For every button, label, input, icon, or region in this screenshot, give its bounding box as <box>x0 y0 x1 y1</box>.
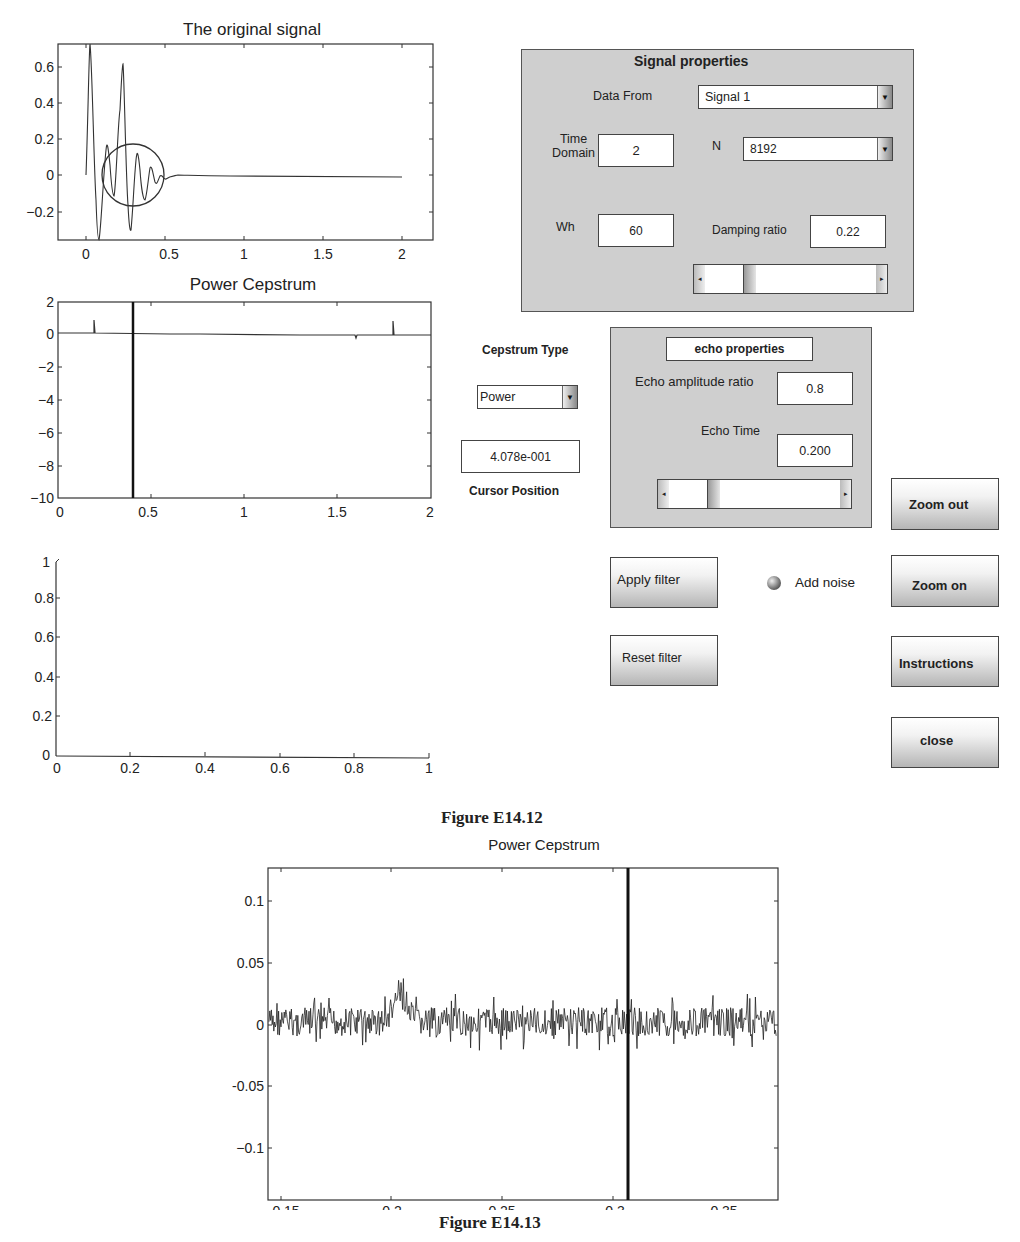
cepstrum-type-value: Power <box>480 390 515 404</box>
plot-title: Power Cepstrum <box>190 275 317 294</box>
cursor-position-field: 4.078e-001 <box>461 440 580 473</box>
svg-text:0.4: 0.4 <box>195 760 215 776</box>
signal-properties-title: Signal properties <box>634 53 748 69</box>
damping-ratio-slider[interactable]: ◂ ▸ <box>693 264 888 294</box>
n-label: N <box>712 139 721 153</box>
svg-text:1: 1 <box>240 246 248 262</box>
svg-text:−2: −2 <box>38 359 54 375</box>
chevron-down-icon[interactable]: ▼ <box>877 138 892 160</box>
echo-properties-panel: echo properties Echo amplitude ratio 0.8… <box>610 327 872 528</box>
svg-text:0.6: 0.6 <box>35 629 55 645</box>
svg-text:0.1: 0.1 <box>245 893 265 909</box>
arrow-left-icon[interactable]: ◂ <box>694 265 705 293</box>
cursor-position-label: Cursor Position <box>469 484 559 498</box>
svg-text:1.5: 1.5 <box>327 504 347 520</box>
arrow-right-icon[interactable]: ▸ <box>876 265 887 293</box>
svg-text:0.25: 0.25 <box>488 1203 515 1210</box>
svg-text:0.4: 0.4 <box>35 669 55 685</box>
plot-title: The original signal <box>183 20 321 39</box>
zoom-on-button[interactable]: Zoom on <box>891 555 999 607</box>
svg-text:2: 2 <box>398 246 406 262</box>
cepstrum-type-select[interactable]: Power ▼ <box>477 385 578 409</box>
svg-text:0.5: 0.5 <box>138 504 158 520</box>
damping-ratio-label: Damping ratio <box>712 223 787 237</box>
radio-button-icon[interactable] <box>767 576 781 590</box>
damping-ratio-input[interactable]: 0.22 <box>810 215 886 248</box>
arrow-right-icon[interactable]: ▸ <box>840 480 851 508</box>
chevron-down-icon[interactable]: ▼ <box>877 86 892 108</box>
svg-text:0: 0 <box>46 167 54 183</box>
svg-text:0.3: 0.3 <box>605 1203 625 1210</box>
svg-text:0.35: 0.35 <box>710 1203 737 1210</box>
wh-label: Wh <box>556 220 575 234</box>
svg-text:0.6: 0.6 <box>35 59 55 75</box>
power-cepstrum-plot[interactable]: Power Cepstrum 2 0 −2 −4 −6 −8 −10 0 0.5… <box>0 265 450 525</box>
svg-text:0.8: 0.8 <box>344 760 364 776</box>
data-from-value: Signal 1 <box>705 90 750 104</box>
svg-text:0.05: 0.05 <box>237 955 264 971</box>
svg-text:0.6: 0.6 <box>270 760 290 776</box>
svg-text:−6: −6 <box>38 425 54 441</box>
n-select[interactable]: 8192 ▼ <box>743 137 893 161</box>
svg-text:0.2: 0.2 <box>382 1203 402 1210</box>
close-button[interactable]: close <box>891 717 999 768</box>
svg-text:−4: −4 <box>38 392 54 408</box>
svg-text:2: 2 <box>426 504 434 520</box>
slider-thumb[interactable] <box>707 480 720 508</box>
time-domain-label: Time Domain <box>552 132 595 160</box>
svg-text:1.5: 1.5 <box>313 246 333 262</box>
svg-text:0: 0 <box>42 747 50 763</box>
svg-text:0: 0 <box>82 246 90 262</box>
svg-text:1: 1 <box>425 760 433 776</box>
svg-text:0: 0 <box>53 760 61 776</box>
svg-text:0.4: 0.4 <box>35 95 55 111</box>
echo-amplitude-input[interactable]: 0.8 <box>777 372 853 405</box>
chevron-down-icon[interactable]: ▼ <box>562 386 577 408</box>
svg-text:−0.2: −0.2 <box>26 204 54 220</box>
svg-text:0: 0 <box>56 504 64 520</box>
reset-filter-button[interactable]: Reset filter <box>610 635 718 686</box>
arrow-left-icon[interactable]: ◂ <box>658 480 669 508</box>
filtered-output-plot: 1 0.8 0.6 0.4 0.2 0 0 0.2 0.4 0.6 0.8 1 <box>0 540 450 780</box>
svg-text:0.15: 0.15 <box>272 1203 299 1210</box>
original-signal-plot: The original signal 0.6 0.4 0.2 0 −0.2 0… <box>0 0 450 270</box>
data-from-select[interactable]: Signal 1 ▼ <box>698 85 893 109</box>
time-domain-input[interactable]: 2 <box>598 134 674 167</box>
svg-text:0.8: 0.8 <box>35 590 55 606</box>
echo-time-input[interactable]: 0.200 <box>777 434 853 467</box>
svg-text:0.2: 0.2 <box>120 760 140 776</box>
zoomed-cepstrum-plot: Power Cepstrum 0.1 0.05 0 -0.05 −0.1 0.1… <box>220 830 800 1210</box>
echo-time-label: Echo Time <box>701 424 760 438</box>
svg-text:0.2: 0.2 <box>35 131 55 147</box>
plot-title: Power Cepstrum <box>488 836 600 853</box>
data-from-label: Data From <box>593 89 652 103</box>
zoom-out-button[interactable]: Zoom out <box>891 478 999 530</box>
instructions-button[interactable]: Instructions <box>891 636 999 687</box>
svg-text:−8: −8 <box>38 458 54 474</box>
figure-caption: Figure E14.13 <box>439 1213 541 1233</box>
echo-amplitude-label: Echo amplitude ratio <box>635 374 754 389</box>
svg-text:-0.05: -0.05 <box>232 1078 264 1094</box>
apply-filter-button[interactable]: Apply filter <box>610 557 718 608</box>
cepstrum-type-label: Cepstrum Type <box>482 343 568 357</box>
slider-thumb[interactable] <box>743 265 756 293</box>
svg-text:1: 1 <box>42 554 50 570</box>
svg-text:−10: −10 <box>30 490 54 506</box>
echo-time-slider[interactable]: ◂ ▸ <box>657 479 852 509</box>
n-value: 8192 <box>750 142 777 156</box>
figure-caption: Figure E14.12 <box>441 808 543 828</box>
svg-text:0.2: 0.2 <box>33 708 53 724</box>
svg-text:−0.1: −0.1 <box>236 1140 264 1156</box>
add-noise-radio[interactable]: Add noise <box>767 575 855 590</box>
svg-text:0: 0 <box>46 326 54 342</box>
svg-text:2: 2 <box>46 294 54 310</box>
echo-properties-title: echo properties <box>666 337 813 361</box>
wh-input[interactable]: 60 <box>598 214 674 247</box>
svg-text:0: 0 <box>256 1017 264 1033</box>
svg-text:1: 1 <box>240 504 248 520</box>
signal-properties-panel: Signal properties Data From Signal 1 ▼ T… <box>521 49 914 312</box>
svg-text:0.5: 0.5 <box>159 246 179 262</box>
